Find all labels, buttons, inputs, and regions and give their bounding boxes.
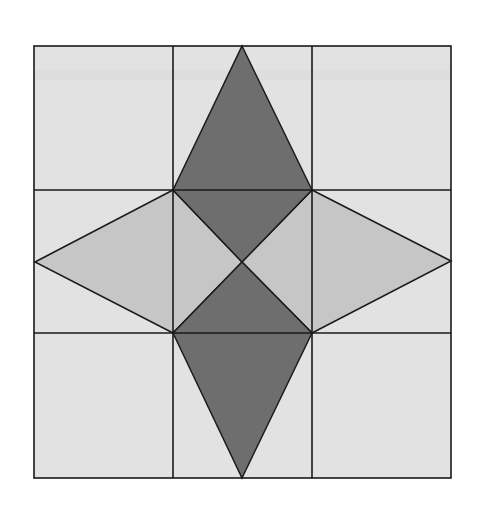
- quilt-star-diagram: [0, 0, 482, 509]
